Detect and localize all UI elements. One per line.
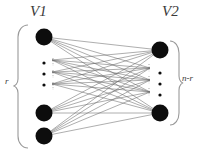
ellipsis-dot-right: [158, 93, 161, 96]
node-group: [36, 29, 169, 145]
graph-node-left: [36, 128, 53, 145]
ellipsis-dot-right: [158, 82, 161, 85]
graph-edge: [44, 92, 150, 113]
graph-edge: [52, 50, 160, 72]
ellipsis-dot-left: [42, 83, 45, 86]
graph-edge: [44, 37, 160, 50]
right-brace: [170, 41, 183, 125]
graph-edge: [52, 72, 160, 113]
label-left-set-size: r: [5, 77, 9, 86]
graph-node-right: [152, 42, 169, 59]
ellipsis-dot-right: [158, 71, 161, 74]
ellipsis-dot-left: [42, 61, 45, 64]
edge-group: [44, 37, 160, 136]
graph-edge: [44, 50, 160, 113]
label-v2: V2: [162, 4, 179, 19]
graph-edge: [52, 68, 150, 84]
label-v1: V1: [30, 4, 47, 19]
graph-node-right: [152, 105, 169, 122]
left-brace: [13, 25, 28, 148]
graph-canvas: [0, 0, 207, 157]
graph-edge: [44, 113, 160, 136]
graph-node-left: [36, 105, 53, 122]
graph-edge: [44, 68, 150, 136]
graph-edge: [44, 92, 150, 136]
bipartite-graph-figure: V1 V2 r n-r: [0, 0, 207, 157]
ellipsis-dot-left: [42, 72, 45, 75]
graph-node-left: [36, 29, 53, 46]
label-right-set-size: n-r: [182, 74, 193, 83]
